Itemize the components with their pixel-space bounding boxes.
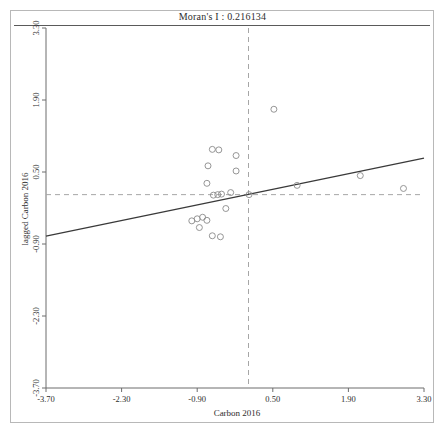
scatter-point	[210, 192, 216, 198]
x-axis-ticks: -3.70-2.30-0.900.501.903.30	[37, 388, 431, 404]
scatter-point	[233, 168, 239, 174]
x-tick-label: -3.70	[37, 394, 55, 404]
scatter-point	[204, 180, 210, 186]
y-axis-title: lagged Carbon 2016	[20, 172, 30, 245]
y-tick-label: 3.30	[31, 21, 41, 36]
x-tick-label: -0.90	[188, 394, 206, 404]
scatter-point	[200, 214, 206, 220]
scatter-point	[205, 163, 211, 169]
scatter-point	[271, 106, 277, 112]
scatter-point	[189, 218, 195, 224]
y-tick-label: -2.30	[31, 307, 41, 325]
scatter-point	[209, 233, 215, 239]
x-tick-label: -2.30	[113, 394, 131, 404]
scatter-point	[233, 153, 239, 159]
x-axis-title: Carbon 2016	[214, 408, 261, 418]
scatter-point	[196, 225, 202, 231]
scatter-point	[217, 234, 223, 240]
scatter-point	[357, 173, 363, 179]
moran-scatterplot-window: Moran's I : 0.216134 lagged Carbon 2016 …	[0, 0, 445, 434]
y-axis-ticks: -3.70-2.30-0.900.501.903.30	[31, 21, 46, 397]
x-tick-label: 1.90	[341, 394, 356, 404]
scatter-point	[400, 185, 406, 191]
y-tick-label: 1.90	[31, 93, 41, 108]
scatter-point-group	[189, 106, 407, 240]
scatter-point	[204, 217, 210, 223]
scatter-plot-canvas: lagged Carbon 2016 Carbon 2016 -3.70-2.3…	[0, 0, 445, 434]
x-tick-label: 0.50	[265, 394, 280, 404]
x-tick-label: 3.30	[417, 394, 432, 404]
moran-fit-line	[46, 158, 424, 236]
scatter-point	[209, 146, 215, 152]
y-tick-label: -0.90	[31, 235, 41, 253]
y-tick-label: 0.50	[31, 165, 41, 180]
scatter-point	[223, 206, 229, 212]
scatter-point	[216, 147, 222, 153]
